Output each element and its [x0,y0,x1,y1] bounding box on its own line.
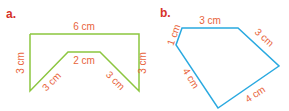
figure-a-inner-top-label: 2 cm [73,55,95,66]
figure-b-top-label: 3 cm [199,15,221,26]
figure-a-right-label: 3 cm [137,52,148,74]
figure-a-top-label: 6 cm [73,21,95,32]
figure-b-heading: b. [160,6,171,20]
figure-b-bottom-right-label: 4 cm [243,84,267,105]
figure-a-inner-left-label: 3 cm [40,70,63,93]
figure-b-bottom-left-label: 4 cm [181,66,202,90]
figure-a-inner-right-label: 3 cm [104,69,127,92]
figure-a-heading: a. [6,7,16,21]
figures-canvas: a. 6 cm 3 cm 3 cm 2 cm 3 cm 3 cm b. 3 cm… [0,0,289,111]
figure-a-left-label: 3 cm [15,52,26,74]
